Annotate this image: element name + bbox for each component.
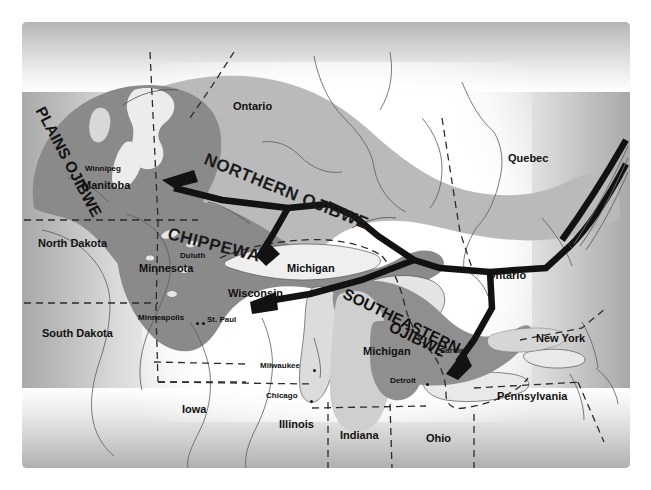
place-label-michigan-lake: Michigan: [287, 263, 335, 274]
lake-ontario: [524, 349, 585, 368]
place-label-iowa: Iowa: [182, 404, 206, 415]
city-label-minneapolis: Minneapolis: [138, 314, 184, 322]
place-label-michigan-state: Michigan: [363, 346, 411, 357]
city-label-detroit: Detroit: [390, 377, 416, 385]
map-frame: PLAINS OJIBWENORTHERN OJIBWECHIPPEWASOUT…: [22, 22, 630, 468]
city-dot-detroit: [426, 383, 429, 386]
place-label-indiana: Indiana: [340, 430, 379, 441]
place-label-new-york: New York: [536, 333, 585, 344]
city-label-chicago: Chicago: [266, 392, 298, 400]
city-dot-sarnia: [437, 353, 440, 356]
place-label-ohio: Ohio: [426, 433, 451, 444]
city-dot-minneapolis: [196, 322, 199, 325]
lake-minnesota-e: [146, 256, 154, 261]
city-dot-chicago: [310, 400, 313, 403]
border-in-oh: [390, 404, 392, 468]
place-label-north-dakota: North Dakota: [38, 238, 107, 249]
city-label-sarnia: Sarnia: [440, 347, 464, 355]
city-label-milwaukee: Milwaukee: [260, 362, 300, 370]
place-label-ontario-north: Ontario: [233, 101, 272, 112]
city-dot-st-paul: [202, 322, 205, 325]
place-label-pennsylvania: Pennsylvania: [497, 391, 567, 402]
city-label-st-paul: St. Paul: [207, 316, 236, 324]
place-label-minnesota: Minnesota: [139, 263, 193, 274]
city-dot-milwaukee: [313, 369, 316, 372]
place-label-ontario-south: Ontario: [487, 270, 526, 281]
place-label-south-dakota: South Dakota: [42, 328, 113, 339]
place-label-quebec: Quebec: [508, 153, 548, 164]
place-label-illinois: Illinois: [279, 419, 314, 430]
border-wi-il: [154, 362, 246, 364]
border-pa-east: [578, 382, 604, 442]
city-label-duluth: Duluth: [180, 252, 205, 260]
screenshot-root: PLAINS OJIBWENORTHERN OJIBWECHIPPEWASOUT…: [0, 0, 651, 490]
lake-minnesota-d: [167, 291, 177, 297]
city-label-winnipeg: Winnipeg: [85, 165, 121, 173]
place-label-manitoba: Manitoba: [82, 180, 130, 191]
place-label-wisconsin: Wisconsin: [228, 288, 283, 299]
